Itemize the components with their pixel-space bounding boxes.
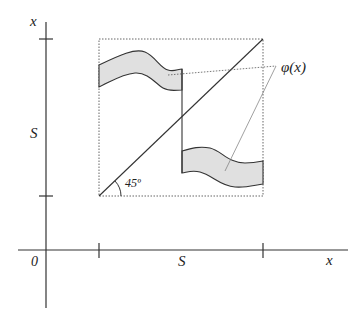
x-axis-label: x [325, 252, 333, 268]
function-label: φ(x) [281, 59, 306, 76]
x-tick-label: S [178, 253, 186, 269]
diagram-canvas: x S 0 S x 45º φ(x) [0, 0, 359, 324]
y-axis-label: x [29, 13, 37, 29]
upper-band [99, 51, 182, 91]
lower-band [182, 147, 263, 187]
angle-arc [115, 181, 121, 196]
pointer-lower [225, 66, 276, 171]
pointer-upper [168, 66, 276, 75]
origin-label: 0 [31, 254, 38, 269]
angle-label: 45º [125, 176, 141, 190]
y-tick-label: S [30, 125, 38, 141]
